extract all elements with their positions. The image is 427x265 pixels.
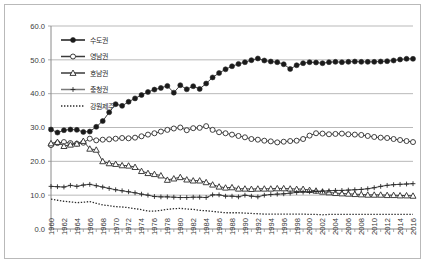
x-tick-label: 1962 — [60, 218, 69, 235]
legend-label: 강원제주 — [90, 102, 115, 111]
x-tick-label: 1966 — [86, 218, 95, 235]
x-tick-label: 2012 — [383, 218, 392, 235]
x-tick-label: 1964 — [73, 218, 82, 235]
y-tick-label: 50.0 — [30, 56, 45, 65]
x-tick-label: 1980 — [176, 218, 185, 235]
x-tick-label: 1992 — [254, 218, 263, 235]
x-tick-label: 1984 — [202, 218, 211, 235]
x-tick-label: 1996 — [280, 218, 289, 235]
x-tick-label: 2016 — [409, 218, 418, 235]
x-tick-label: 2000 — [305, 218, 314, 235]
chart-frame: 0.010.020.030.040.050.060.0 196019621964… — [4, 4, 421, 259]
legend-item-4[interactable]: 충청권 — [61, 85, 108, 94]
x-tick-label: 2008 — [357, 218, 366, 235]
x-tick-labels: 1960196219641966196819701972197419761978… — [47, 218, 418, 235]
series-5 — [51, 199, 413, 215]
y-tick-labels: 0.010.020.030.040.050.060.0 — [30, 22, 45, 234]
x-tick-label: 1982 — [189, 218, 198, 235]
legend-item-5[interactable]: 강원제주 — [61, 102, 115, 111]
y-tick-label: 60.0 — [30, 22, 45, 31]
x-tick-label: 1968 — [99, 218, 108, 235]
x-tick-label: 2004 — [331, 218, 340, 235]
y-tick-label: 30.0 — [30, 123, 45, 132]
x-tick-label: 1972 — [124, 218, 133, 235]
y-tick-label: 0.0 — [34, 225, 45, 234]
series-1 — [49, 56, 416, 135]
x-tick-label: 1976 — [150, 218, 159, 235]
x-tick-label: 2006 — [344, 218, 353, 235]
x-tick-label: 1998 — [293, 218, 302, 235]
x-tick-label: 1978 — [163, 218, 172, 235]
x-tick-label: 2002 — [318, 218, 327, 235]
legend-label: 충청권 — [90, 85, 108, 94]
y-tick-label: 10.0 — [30, 191, 45, 200]
chart-legend: 수도권영남권호남권충청권강원제주 — [61, 37, 115, 111]
x-tick-label: 2010 — [370, 218, 379, 235]
legend-item-1[interactable]: 수도권 — [61, 37, 108, 45]
regional-population-share-line-chart: 0.010.020.030.040.050.060.0 196019621964… — [5, 5, 420, 258]
x-tick-label: 1994 — [267, 218, 276, 235]
x-tick-label: 2014 — [396, 218, 405, 235]
legend-label: 영남권 — [90, 52, 108, 61]
legend-label: 호남권 — [90, 69, 108, 78]
x-tick-label: 1960 — [47, 218, 56, 235]
x-tick-label: 1988 — [228, 218, 237, 235]
x-tick-label: 1990 — [241, 218, 250, 235]
legend-item-3[interactable]: 호남권 — [61, 69, 108, 78]
x-tick-label: 1986 — [215, 218, 224, 235]
x-tick-label: 1974 — [137, 218, 146, 235]
data-series-group — [48, 56, 416, 215]
y-tick-label: 40.0 — [30, 89, 45, 98]
x-tick-label: 1970 — [112, 218, 121, 235]
y-tick-label: 20.0 — [30, 157, 45, 166]
legend-label: 수도권 — [90, 37, 108, 45]
